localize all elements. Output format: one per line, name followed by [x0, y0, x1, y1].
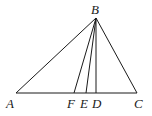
label-e: E — [79, 96, 88, 111]
label-c: C — [134, 96, 143, 111]
label-f: F — [66, 96, 76, 111]
label-b: B — [91, 2, 99, 17]
segment-bc — [96, 18, 137, 93]
label-d: D — [91, 96, 102, 111]
label-a: A — [5, 96, 14, 111]
segment-be — [86, 18, 96, 93]
segment-ab — [16, 18, 96, 93]
triangle-diagram: A B C D E F — [0, 0, 152, 116]
segment-bf — [74, 18, 96, 93]
